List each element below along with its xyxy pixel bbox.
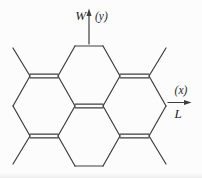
y-axis-name-label: W: [75, 8, 87, 23]
bond-line: [103, 106, 120, 136]
bond-line: [58, 136, 75, 166]
molecule-diagram: W (y) (x) L: [0, 0, 202, 178]
y-axis-arrowhead-icon: [87, 9, 92, 17]
stub-bond-line: [13, 48, 30, 76]
bond-line: [58, 106, 75, 136]
bond-line: [103, 76, 120, 106]
stub-bond-line: [149, 48, 166, 76]
bond-line: [149, 106, 166, 136]
bond-group: [13, 46, 166, 166]
x-axis-symbol-label: (x): [175, 84, 188, 97]
bond-line: [58, 46, 75, 76]
stub-bond-line: [149, 136, 166, 164]
x-axis-name-label: L: [173, 106, 181, 121]
figure-canvas: W (y) (x) L: [0, 0, 202, 178]
x-axis-arrowhead-icon: [184, 100, 192, 105]
x-axis-arrow: [168, 100, 192, 105]
bond-line: [13, 76, 30, 106]
bond-line: [103, 46, 120, 76]
y-axis-arrow: [87, 9, 92, 45]
bond-line: [149, 76, 166, 106]
bond-line: [103, 136, 120, 166]
y-axis-symbol-label: (y): [95, 10, 108, 23]
bond-line: [13, 106, 30, 136]
stub-bond-line: [13, 136, 30, 164]
bond-line: [58, 76, 75, 106]
